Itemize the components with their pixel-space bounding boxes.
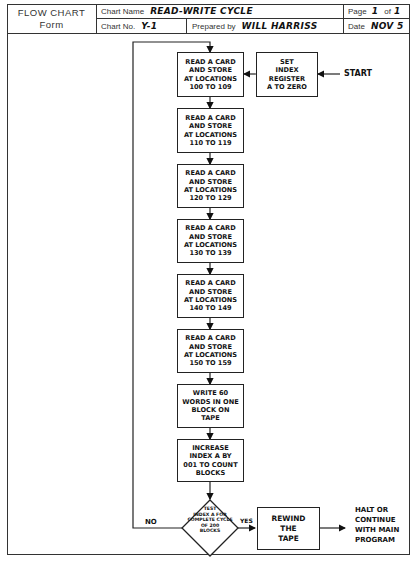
decision-text: TEST INDEX A FOR COMPLETE CYCLE OF 200 B… <box>184 506 236 534</box>
step-read-140-149: READ A CARD AND STORE AT LOCATIONS 140 T… <box>177 274 244 318</box>
step-increase-index: INCREASE INDEX A BY 001 TO COUNT BLOCKS <box>177 439 244 482</box>
step-read-130-139: READ A CARD AND STORE AT LOCATIONS 130 T… <box>177 219 244 263</box>
step-write-block: WRITE 60 WORDS IN ONE BLOCK ON TAPE <box>177 384 244 428</box>
step-read-120-129: READ A CARD AND STORE AT LOCATIONS 120 T… <box>177 164 244 208</box>
end-label: HALT OR CONTINUE WITH MAIN PROGRAM <box>355 505 399 545</box>
no-label: NO <box>145 518 157 527</box>
rewind-tape-box: REWIND THE TAPE <box>257 507 320 550</box>
step-read-110-119: READ A CARD AND STORE AT LOCATIONS 110 T… <box>177 108 244 153</box>
yes-label: YES <box>240 516 253 525</box>
step-read-100-109: READ A CARD AND STORE AT LOCATIONS 100 T… <box>177 52 244 97</box>
start-label: START <box>344 69 372 78</box>
step-read-150-159: READ A CARD AND STORE AT LOCATIONS 150 T… <box>177 329 244 373</box>
init-index-box: SET INDEX REGISTER A TO ZERO <box>256 52 318 97</box>
